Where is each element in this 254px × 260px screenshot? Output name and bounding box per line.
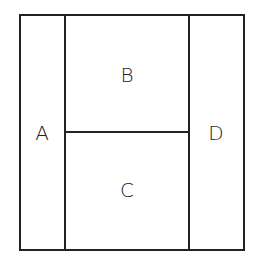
- region-d-label: D: [208, 123, 223, 143]
- outer-top-border: [19, 14, 245, 16]
- outer-left-border: [19, 14, 21, 251]
- region-a-label: A: [35, 123, 49, 143]
- region-b-label: B: [120, 65, 133, 85]
- divider-middle: [64, 131, 190, 133]
- outer-bottom-border: [19, 249, 245, 251]
- region-c-label: C: [120, 180, 134, 200]
- outer-right-border: [243, 14, 245, 251]
